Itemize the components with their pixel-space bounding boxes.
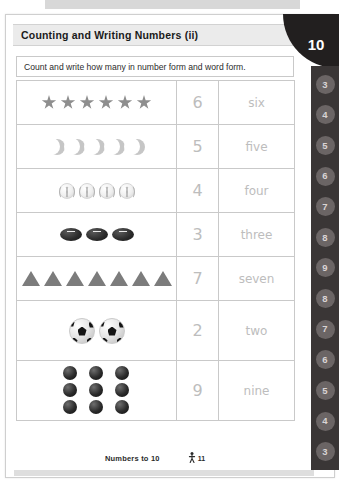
tab-chip-3[interactable]: 6: [316, 167, 335, 186]
star-icon: [80, 95, 95, 110]
word-form-answer[interactable]: seven: [219, 257, 295, 301]
number-form-answer[interactable]: 4: [177, 169, 219, 213]
tab-chip-0[interactable]: 3: [316, 75, 335, 94]
footer-label: Numbers to 10: [105, 454, 160, 463]
triangle-icon: [132, 271, 150, 286]
triangle-icon: [44, 271, 62, 286]
crescent-moon-icon: [69, 139, 85, 155]
tab-chip-6[interactable]: 9: [316, 258, 335, 277]
objects-cell: [17, 81, 177, 125]
soccer-ball-icon: [69, 318, 95, 344]
word-form-answer[interactable]: four: [219, 169, 295, 213]
word-form-answer[interactable]: two: [219, 301, 295, 361]
triangle-icon: [110, 271, 128, 286]
bottom-decoration-band: [14, 470, 314, 476]
table-row: 3three: [17, 213, 295, 257]
triangle-icon: [154, 271, 172, 286]
object-group: [21, 363, 172, 418]
word-form-answer[interactable]: three: [219, 213, 295, 257]
footer-page-marker: 11: [188, 450, 205, 466]
tab-chip-8[interactable]: 7: [316, 320, 335, 339]
tab-chip-7[interactable]: 8: [316, 289, 335, 308]
triangle-icon: [88, 271, 106, 286]
page-footer: Numbers to 10 11: [16, 450, 294, 466]
object-group: [21, 215, 172, 254]
walking-person-icon: [188, 450, 196, 466]
objects-cell: [17, 301, 177, 361]
number-form-answer[interactable]: 7: [177, 257, 219, 301]
counting-table: 6six5five4four3three7seven2two9nine: [16, 80, 295, 421]
football-icon: [112, 228, 134, 241]
tab-chip-1[interactable]: 4: [316, 105, 335, 124]
bead-sphere-icon: [115, 383, 129, 397]
bead-sphere-icon: [63, 383, 77, 397]
baseball-icon: [79, 183, 95, 199]
objects-cell: [17, 125, 177, 169]
tab-chip-10[interactable]: 5: [316, 381, 335, 400]
bead-sphere-icon: [63, 366, 77, 380]
triangle-icon: [66, 271, 84, 286]
football-icon: [86, 228, 108, 241]
word-form-answer[interactable]: six: [219, 81, 295, 125]
bead-sphere-icon: [89, 400, 103, 414]
table-row: 5five: [17, 125, 295, 169]
star-icon: [137, 95, 152, 110]
table-row: 6six: [17, 81, 295, 125]
crescent-moon-icon: [49, 139, 65, 155]
number-form-answer[interactable]: 6: [177, 81, 219, 125]
table-row: 9nine: [17, 361, 295, 421]
objects-cell: [17, 361, 177, 421]
object-group: [21, 127, 172, 166]
page-title: Counting and Writing Numbers (ii): [13, 29, 198, 41]
bead-sphere-icon: [89, 383, 103, 397]
tab-chip-5[interactable]: 8: [316, 228, 335, 247]
crescent-moon-icon: [129, 139, 145, 155]
soccer-ball-icon: [99, 318, 125, 344]
star-icon: [61, 95, 76, 110]
crescent-moon-icon: [109, 139, 125, 155]
table-row: 4four: [17, 169, 295, 213]
tab-chip-12[interactable]: 3: [316, 442, 335, 461]
objects-cell: [17, 257, 177, 301]
star-icon: [118, 95, 133, 110]
instruction-text: Count and write how many in number form …: [17, 62, 246, 72]
object-group: [21, 303, 172, 358]
word-form-answer[interactable]: nine: [219, 361, 295, 421]
tab-chip-2[interactable]: 5: [316, 136, 335, 155]
object-group: [21, 83, 172, 122]
bead-sphere-icon: [89, 366, 103, 380]
chapter-tab-strip[interactable]: 3456789876543: [311, 66, 339, 470]
worksheet-page: Counting and Writing Numbers (ii) 10 345…: [0, 0, 351, 492]
baseball-icon: [99, 183, 115, 199]
number-form-answer[interactable]: 3: [177, 213, 219, 257]
triangle-icon: [22, 271, 40, 286]
star-icon: [99, 95, 114, 110]
bead-sphere-icon: [115, 366, 129, 380]
crescent-moon-icon: [89, 139, 105, 155]
baseball-icon: [59, 183, 75, 199]
number-form-answer[interactable]: 5: [177, 125, 219, 169]
number-form-answer[interactable]: 9: [177, 361, 219, 421]
bead-sphere-icon: [63, 400, 77, 414]
object-group: [21, 171, 172, 210]
header-bar: Counting and Writing Numbers (ii): [13, 24, 298, 46]
tab-chip-4[interactable]: 7: [316, 197, 335, 216]
tab-chip-9[interactable]: 6: [316, 350, 335, 369]
number-form-answer[interactable]: 2: [177, 301, 219, 361]
table-row: 7seven: [17, 257, 295, 301]
top-decoration-band: [45, 0, 300, 9]
football-icon: [60, 228, 82, 241]
baseball-icon: [119, 183, 135, 199]
footer-page-number: 11: [198, 455, 205, 462]
tab-chip-11[interactable]: 4: [316, 412, 335, 431]
objects-cell: [17, 169, 177, 213]
page-number: 10: [298, 30, 325, 53]
instruction-box: Count and write how many in number form …: [16, 56, 294, 77]
star-icon: [42, 95, 57, 110]
word-form-answer[interactable]: five: [219, 125, 295, 169]
table-row: 2two: [17, 301, 295, 361]
objects-cell: [17, 213, 177, 257]
bead-sphere-icon: [115, 400, 129, 414]
object-group: [21, 259, 172, 298]
